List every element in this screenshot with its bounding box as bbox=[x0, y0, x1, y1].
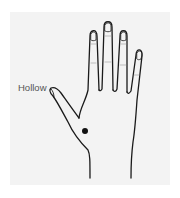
little-finger-outline bbox=[127, 50, 142, 178]
acupressure-point-dot bbox=[82, 128, 88, 134]
hand-illustration bbox=[0, 0, 180, 198]
finger-nails bbox=[91, 23, 142, 60]
hollow-label: Hollow bbox=[18, 82, 47, 93]
middle-finger-outline bbox=[99, 22, 113, 91]
ring-finger-outline bbox=[113, 31, 127, 92]
